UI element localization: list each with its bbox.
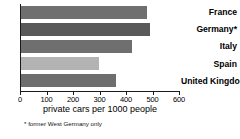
- chart-footnote: * former West Germany only: [24, 120, 102, 127]
- x-tick-label: 500: [146, 95, 158, 104]
- bar-france: [21, 6, 147, 19]
- bar-italy: [21, 40, 132, 53]
- category-label: Italy: [181, 38, 238, 55]
- x-tick-label: 300: [93, 95, 105, 104]
- x-tick-label: 100: [40, 95, 52, 104]
- category-label: United Kingdom: [181, 73, 238, 90]
- bar-row: [21, 73, 179, 90]
- bar-germany: [21, 23, 150, 36]
- category-label: Germany*: [181, 21, 238, 38]
- x-tick-label: 0: [18, 95, 22, 104]
- category-label: France: [181, 4, 238, 21]
- category-label: Spain: [181, 56, 238, 73]
- y-axis-line: [20, 4, 21, 91]
- plot-area: [21, 4, 179, 90]
- x-tick-label: 400: [120, 95, 132, 104]
- bar-united-kingdom: [21, 74, 116, 87]
- x-tick-label: 600: [173, 95, 185, 104]
- bar-row: [21, 38, 179, 55]
- x-axis-label: private cars per 1000 people: [20, 104, 180, 114]
- bar-row: [21, 21, 179, 38]
- bar-spain: [21, 57, 99, 70]
- bar-row: [21, 56, 179, 73]
- bar-row: [21, 4, 179, 21]
- category-labels: FranceGermany*ItalySpainUnited Kingdom: [181, 4, 238, 90]
- x-tick-label: 200: [67, 95, 79, 104]
- bar-chart: 0100200300400500600 FranceGermany*ItalyS…: [0, 0, 240, 139]
